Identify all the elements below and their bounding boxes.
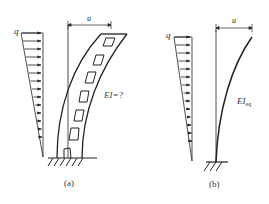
caption-a: (a) [64,179,74,188]
stiffness-label-b: EIeq [237,97,251,107]
fixed-support-a [48,158,97,166]
displacement-dimension-b [216,24,252,32]
caption-b: (b) [209,180,220,189]
displacement-label-a: u [87,15,91,23]
triangular-load-b [174,37,192,161]
stiffness-label-b-sub: eq [246,101,252,107]
stiffness-label-a: EI=? [104,91,123,100]
load-label-a: q [14,27,19,36]
displacement-label-b: u [232,17,236,25]
stiffness-label-b-main: EI [237,96,246,106]
triangular-load-a [21,33,43,157]
diagram-canvas [0,0,269,204]
load-label-b: q [166,31,171,40]
fixed-support-b [204,162,228,171]
